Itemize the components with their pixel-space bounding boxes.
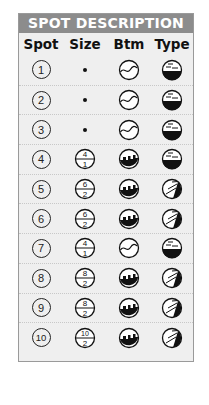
size-fraction-icon: 41 (74, 148, 96, 170)
reef-bottom-icon (118, 327, 140, 349)
size-cell (63, 68, 107, 72)
spot-row: 662 (19, 203, 193, 233)
svg-text:8: 8 (83, 299, 88, 308)
size-fraction-icon: 62 (74, 208, 96, 230)
spot-number: 4 (32, 150, 51, 169)
reef-bottom-icon (118, 208, 140, 230)
spot-cell: 9 (19, 298, 63, 317)
size-cell (63, 98, 107, 102)
size-cell: 62 (63, 208, 107, 230)
point-break-icon (161, 178, 183, 200)
size-cell: 82 (63, 267, 107, 289)
svg-text:4: 4 (83, 150, 88, 159)
bottom-cell (107, 119, 151, 141)
spot-cell: 3 (19, 120, 63, 139)
reef-bottom-icon (118, 267, 140, 289)
spot-row: 882 (19, 263, 193, 293)
type-cell (151, 89, 193, 111)
bottom-cell (107, 267, 151, 289)
bottom-cell (107, 178, 151, 200)
spot-row: 441 (19, 144, 193, 174)
sand-bottom-icon (118, 59, 140, 81)
size-cell: 41 (63, 148, 107, 170)
col-btm: Btm (107, 36, 151, 52)
svg-text:2: 2 (83, 338, 88, 347)
bottom-cell (107, 89, 151, 111)
size-cell: 82 (63, 297, 107, 319)
beach-break-icon (161, 237, 183, 259)
svg-text:2: 2 (83, 190, 88, 199)
spot-cell: 1 (19, 60, 63, 79)
beach-break-icon (161, 89, 183, 111)
beach-break-icon (161, 119, 183, 141)
spot-number: 2 (32, 91, 51, 110)
bottom-cell (107, 327, 151, 349)
beach-break-icon (161, 59, 183, 81)
svg-text:8: 8 (83, 269, 88, 278)
type-cell (151, 297, 193, 319)
reef-bottom-icon (118, 178, 140, 200)
spot-row: 2 (19, 85, 193, 115)
svg-text:6: 6 (83, 210, 88, 219)
spot-number: 6 (32, 209, 51, 228)
size-fraction-icon: 62 (74, 178, 96, 200)
spot-row: 741 (19, 233, 193, 263)
spot-number: 10 (32, 328, 51, 347)
sand-bottom-icon (118, 237, 140, 259)
size-dot-icon (83, 68, 87, 72)
svg-text:10: 10 (81, 330, 89, 337)
size-fraction-icon: 82 (74, 267, 96, 289)
spot-row: 562 (19, 174, 193, 204)
type-cell (151, 148, 193, 170)
svg-text:2: 2 (83, 219, 88, 228)
spot-description-panel: SPOT DESCRIPTION Spot Size Btm Type 1234… (18, 13, 194, 362)
spot-cell: 7 (19, 239, 63, 258)
type-cell (151, 119, 193, 141)
column-headers: Spot Size Btm Type (19, 33, 193, 55)
type-cell (151, 208, 193, 230)
col-type: Type (151, 36, 193, 52)
spot-number: 9 (32, 298, 51, 317)
spot-number: 5 (32, 180, 51, 199)
sand-bottom-icon (118, 89, 140, 111)
size-cell: 62 (63, 178, 107, 200)
size-cell: 41 (63, 237, 107, 259)
size-dot-icon (83, 128, 87, 132)
spot-rows: 12344156266274188298210102 (19, 55, 193, 352)
svg-text:6: 6 (83, 180, 88, 189)
bottom-cell (107, 148, 151, 170)
svg-text:2: 2 (83, 279, 88, 288)
spot-cell: 5 (19, 180, 63, 199)
spot-row: 3 (19, 114, 193, 144)
svg-text:1: 1 (83, 249, 88, 258)
point-break-icon (161, 267, 183, 289)
spot-cell: 2 (19, 91, 63, 110)
type-cell (151, 327, 193, 349)
reef-bottom-icon (118, 148, 140, 170)
panel-title: SPOT DESCRIPTION (19, 14, 193, 33)
size-fraction-icon: 82 (74, 297, 96, 319)
spot-number: 1 (32, 60, 51, 79)
spot-number: 8 (32, 269, 51, 288)
type-cell (151, 267, 193, 289)
bottom-cell (107, 59, 151, 81)
spot-row: 10102 (19, 322, 193, 352)
size-fraction-icon: 41 (74, 237, 96, 259)
spot-cell: 4 (19, 150, 63, 169)
svg-text:1: 1 (83, 160, 88, 169)
type-cell (151, 237, 193, 259)
beach-break-icon (161, 148, 183, 170)
reef-bottom-icon (118, 297, 140, 319)
spot-cell: 10 (19, 328, 63, 347)
spot-cell: 6 (19, 209, 63, 228)
point-break-icon (161, 297, 183, 319)
bottom-cell (107, 237, 151, 259)
spot-number: 7 (32, 239, 51, 258)
size-dot-icon (83, 98, 87, 102)
type-cell (151, 59, 193, 81)
svg-text:2: 2 (83, 308, 88, 317)
svg-text:4: 4 (83, 239, 88, 248)
bottom-cell (107, 208, 151, 230)
spot-row: 1 (19, 55, 193, 85)
point-break-icon (161, 327, 183, 349)
